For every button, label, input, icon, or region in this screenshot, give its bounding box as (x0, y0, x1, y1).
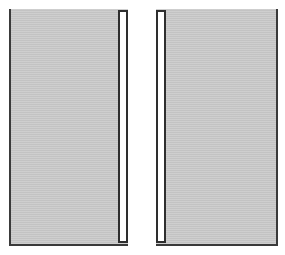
right-pane (156, 9, 278, 246)
left-pane-vertical-scrollbar[interactable] (118, 10, 128, 243)
right-pane-vertical-scrollbar[interactable] (156, 10, 166, 243)
left-pane (9, 9, 128, 246)
